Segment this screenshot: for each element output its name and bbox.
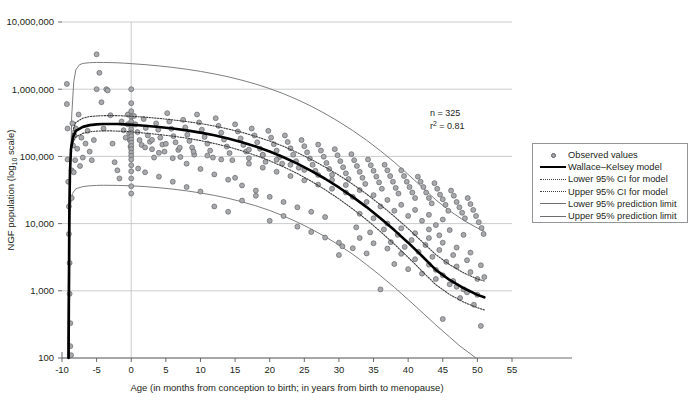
data-point <box>89 158 94 163</box>
data-point <box>338 159 343 164</box>
data-point <box>80 155 85 160</box>
legend-item: Lower 95% CI for model <box>538 173 683 185</box>
data-point <box>379 186 384 191</box>
data-point <box>208 148 213 153</box>
data-point <box>75 146 80 151</box>
data-point <box>451 193 456 198</box>
data-point <box>70 121 75 126</box>
data-point <box>129 169 134 174</box>
data-point <box>288 162 293 167</box>
data-point <box>227 151 232 156</box>
data-point <box>357 236 362 241</box>
legend-thin-line-icon <box>540 216 566 217</box>
data-point <box>295 205 300 210</box>
data-point <box>440 197 445 202</box>
data-point <box>269 135 274 140</box>
data-point <box>64 81 69 86</box>
data-point <box>437 247 442 252</box>
x-tick-label: 30 <box>334 364 345 375</box>
data-point <box>178 154 183 159</box>
data-point <box>110 141 115 146</box>
data-point <box>137 138 142 143</box>
data-point <box>156 150 161 155</box>
x-tick-label: 45 <box>437 364 448 375</box>
legend-item-label: Lower 95% prediction limit <box>568 198 677 210</box>
y-tick-label: 1,000,000 <box>12 84 54 95</box>
data-point <box>302 178 307 183</box>
data-point <box>324 160 329 165</box>
data-point <box>253 193 258 198</box>
data-point <box>332 147 337 152</box>
data-point <box>478 263 483 268</box>
data-point <box>371 241 376 246</box>
figure-container: 1001,00010,000100,0001,000,00010,000,000… <box>0 0 693 402</box>
data-point <box>399 168 404 173</box>
y-tick-label: 1,000 <box>30 285 54 296</box>
data-point <box>267 218 272 223</box>
data-point <box>330 172 335 177</box>
x-tick-label: 40 <box>403 364 414 375</box>
data-point <box>105 88 110 93</box>
data-point <box>158 135 163 140</box>
data-point <box>468 202 473 207</box>
data-point <box>255 140 260 145</box>
data-point <box>440 217 445 222</box>
data-point <box>435 186 440 191</box>
data-point <box>390 179 395 184</box>
data-point <box>184 161 189 166</box>
data-point <box>381 227 386 232</box>
data-point <box>156 174 161 179</box>
data-point <box>150 147 155 152</box>
data-point <box>117 176 122 181</box>
data-point <box>198 166 203 171</box>
legend-key <box>538 149 568 161</box>
data-point <box>253 188 258 193</box>
data-point <box>402 244 407 249</box>
data-point <box>343 171 348 176</box>
data-point <box>291 152 296 157</box>
x-axis-title: Age (in months from conception to birth;… <box>130 382 443 393</box>
data-point <box>349 152 354 157</box>
y-tick-label: 10,000 <box>25 218 54 229</box>
data-point <box>363 181 368 186</box>
data-point <box>426 212 431 217</box>
data-point <box>406 213 411 218</box>
data-point <box>129 87 134 92</box>
data-point <box>478 323 483 328</box>
data-point <box>213 116 218 121</box>
data-point <box>392 262 397 267</box>
data-point <box>366 157 371 162</box>
data-point <box>335 153 340 158</box>
data-point <box>406 267 411 272</box>
data-point <box>368 163 373 168</box>
legend-key <box>538 161 568 173</box>
data-point <box>185 132 190 137</box>
data-point <box>440 240 445 245</box>
data-point <box>396 191 401 196</box>
legend-dotted-line-icon <box>540 191 566 192</box>
data-point <box>323 215 328 220</box>
data-point <box>402 174 407 179</box>
y-tick-label: 100,000 <box>20 151 54 162</box>
data-point <box>461 232 466 237</box>
data-point <box>482 275 487 280</box>
legend-thick-line-icon <box>540 166 566 168</box>
data-point <box>399 226 404 231</box>
data-point <box>357 169 362 174</box>
data-point <box>129 109 134 114</box>
data-point <box>454 245 459 250</box>
data-point <box>197 120 202 125</box>
data-point <box>481 232 486 237</box>
data-point <box>440 317 445 322</box>
data-point <box>143 170 148 175</box>
x-tick-label: 5 <box>163 364 168 375</box>
data-point <box>364 251 369 256</box>
data-point <box>393 185 398 190</box>
data-point <box>316 142 321 147</box>
data-point <box>150 137 155 142</box>
data-point <box>226 177 231 182</box>
data-point <box>382 162 387 167</box>
data-point <box>260 152 265 157</box>
data-point <box>476 220 481 225</box>
data-point <box>129 176 134 181</box>
